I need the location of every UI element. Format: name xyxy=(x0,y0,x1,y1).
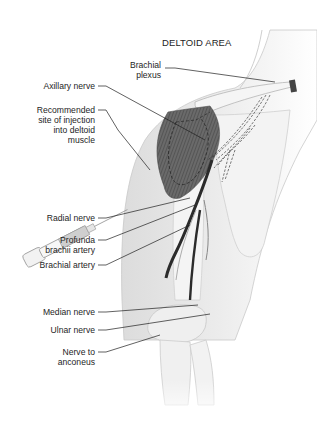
label-ulnar-nerve: Ulnar nerve xyxy=(51,325,95,335)
label-axillary-nerve: Axillary nerve xyxy=(43,81,95,91)
label-brachial-artery: Brachial artery xyxy=(40,260,95,270)
diagram-title: DELTOID AREA xyxy=(162,37,231,48)
anatomy-diagram: DELTOID AREA Brachial plexus Axillary ne… xyxy=(0,0,317,422)
label-profunda-brachii: Profunda brachii artery xyxy=(45,235,95,255)
label-brachial-plexus: Brachial plexus xyxy=(130,60,161,80)
label-nerve-to-anconeus: Nerve to anconeus xyxy=(58,347,95,367)
label-injection-site: Recommended site of injection into delto… xyxy=(37,105,95,145)
label-radial-nerve: Radial nerve xyxy=(47,213,95,223)
label-median-nerve: Median nerve xyxy=(43,307,95,317)
